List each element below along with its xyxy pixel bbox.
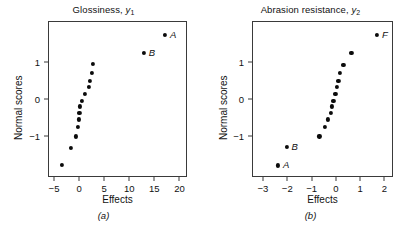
data-point	[338, 71, 342, 75]
y-axis-tick-label: −1	[230, 131, 244, 142]
data-point	[336, 79, 340, 83]
x-axis-tick-label: −2	[282, 183, 293, 194]
data-point	[77, 111, 81, 115]
x-axis-tick-label: 0	[333, 183, 338, 194]
panel-b-title-text: Abrasion resistance,	[261, 4, 349, 15]
x-axis-tick-label: 20	[174, 183, 185, 194]
x-axis-tick-label: 10	[124, 183, 135, 194]
data-point	[87, 85, 91, 89]
x-axis-tick	[54, 177, 55, 181]
data-point	[331, 99, 335, 103]
data-point	[335, 85, 339, 89]
x-axis-tick-label: 5	[102, 183, 107, 194]
data-point	[317, 134, 321, 138]
y-axis-tick	[248, 61, 252, 62]
panel-abrasion-resistance: Abrasion resistance, y2 Effects Normal s…	[207, 0, 414, 230]
y-axis-tick-label: 0	[230, 94, 244, 105]
data-point	[74, 134, 78, 138]
data-point	[163, 33, 167, 37]
data-point	[88, 79, 92, 83]
panel-a-title: Glossiness, y1	[0, 4, 207, 15]
x-axis-tick	[79, 177, 80, 181]
x-axis-tick	[179, 177, 180, 181]
y-axis-tick-label: 0	[26, 94, 40, 105]
point-label-a: A	[283, 159, 289, 170]
x-axis-tick	[335, 177, 336, 181]
x-axis-tick	[154, 177, 155, 181]
point-label-b: B	[149, 46, 155, 57]
data-point	[77, 117, 81, 121]
x-axis-tick	[262, 177, 263, 181]
y-axis-tick-label: −1	[26, 131, 40, 142]
x-axis-tick-label: −3	[258, 183, 269, 194]
data-point	[326, 117, 330, 121]
panel-a-title-subscript: 1	[130, 9, 134, 16]
panel-b-yaxis-title: Normal scores	[218, 76, 229, 140]
data-point	[91, 62, 95, 66]
plot-area-glossiness	[48, 21, 187, 177]
data-point	[349, 51, 353, 55]
x-axis-tick	[129, 177, 130, 181]
data-point	[323, 125, 327, 129]
x-axis-tick	[384, 177, 385, 181]
data-point	[69, 145, 73, 149]
data-point	[328, 111, 332, 115]
x-axis-tick-label: 2	[382, 183, 387, 194]
data-point	[330, 104, 334, 108]
y-axis-tick	[248, 99, 252, 100]
panel-a-xaxis-title: Effects	[48, 194, 187, 205]
panel-b-xaxis-title: Effects	[252, 194, 393, 205]
point-label-b: B	[292, 141, 298, 152]
x-axis-tick	[360, 177, 361, 181]
data-point	[59, 163, 63, 167]
x-axis-tick-label: 1	[358, 183, 363, 194]
data-point	[76, 125, 80, 129]
data-point	[78, 104, 82, 108]
panel-a-yaxis-title: Normal scores	[13, 76, 24, 140]
data-point	[276, 163, 280, 167]
data-point	[142, 51, 146, 55]
x-axis-tick-label: −5	[49, 183, 60, 194]
x-axis-tick-label: 0	[76, 183, 81, 194]
panel-a-title-text: Glossiness,	[73, 4, 123, 15]
data-point	[284, 145, 288, 149]
data-point	[90, 71, 94, 75]
data-point	[333, 92, 337, 96]
panel-b-title: Abrasion resistance, y2	[207, 4, 414, 15]
data-point	[375, 33, 379, 37]
data-point	[83, 92, 87, 96]
y-axis-tick	[44, 136, 48, 137]
x-axis-tick	[287, 177, 288, 181]
panel-b-title-subscript: 2	[356, 9, 360, 16]
point-label-f: F	[382, 28, 388, 39]
y-axis-tick	[248, 136, 252, 137]
y-axis-tick-label: 1	[26, 56, 40, 67]
x-axis-tick	[104, 177, 105, 181]
plot-area-abrasion-resistance	[252, 21, 393, 177]
panel-glossiness: Glossiness, y1 Effects Normal scores (a)…	[0, 0, 207, 230]
y-axis-tick	[44, 99, 48, 100]
panel-b-subcaption: (b)	[207, 210, 414, 221]
point-label-a: A	[170, 28, 176, 39]
data-point	[80, 99, 84, 103]
data-point	[341, 63, 345, 67]
normal-probability-plot-figure: Glossiness, y1 Effects Normal scores (a)…	[0, 0, 414, 230]
y-axis-tick	[44, 61, 48, 62]
x-axis-tick	[311, 177, 312, 181]
x-axis-tick-label: 15	[149, 183, 160, 194]
y-axis-tick-label: 1	[230, 56, 244, 67]
panel-a-subcaption: (a)	[0, 210, 207, 221]
x-axis-tick-label: −1	[306, 183, 317, 194]
